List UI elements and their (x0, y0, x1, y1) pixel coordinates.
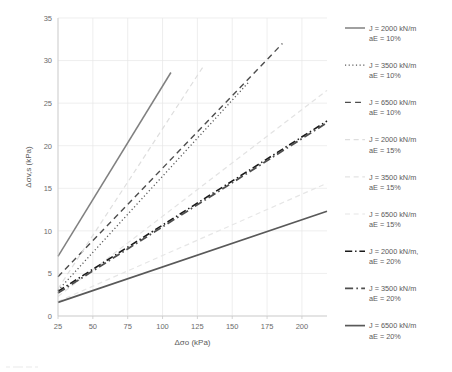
legend-label-line1-0: J = 2000 kN/m (369, 24, 416, 33)
page-footer-artifact (6, 357, 126, 364)
x-tick-label: 50 (89, 322, 97, 331)
legend-label-line2-4: aE = 15% (369, 183, 401, 192)
y-tick-label: 35 (44, 14, 52, 23)
y-tick-label: 30 (44, 56, 52, 65)
x-tick-label: 25 (54, 322, 62, 331)
x-tick-label: 125 (191, 322, 204, 331)
legend-entry-8[interactable]: J = 6500 kN/maE = 20% (345, 321, 416, 340)
legend-entry-3[interactable]: J = 2000 kN/maE = 15% (345, 135, 416, 154)
legend-entry-6[interactable]: J = 2000 kN/m,aE = 20% (345, 247, 418, 266)
tick-labels: 05101520253035255075100125150175200 (44, 14, 309, 331)
axes (58, 18, 327, 319)
legend-label-line1-5: J = 6500 kN/m (369, 210, 416, 219)
series-line-8 (58, 211, 327, 302)
gridlines (58, 18, 327, 316)
series-line-5 (58, 183, 327, 301)
y-tick-label: 5 (48, 269, 52, 278)
chart-page: 05101520253035255075100125150175200 Δσo … (0, 0, 452, 372)
y-tick-label: 15 (44, 184, 52, 193)
settlement-line-chart: 05101520253035255075100125150175200 Δσo … (0, 0, 452, 372)
legend-label-line1-6: J = 2000 kN/m, (369, 247, 418, 256)
legend-label-line1-3: J = 2000 kN/m (369, 135, 416, 144)
legend-label-line2-1: aE = 10% (369, 71, 401, 80)
legend-label-line2-7: aE = 20% (369, 294, 401, 303)
legend-entry-0[interactable]: J = 2000 kN/maE = 10% (345, 24, 416, 43)
series-lines (58, 44, 327, 303)
x-axis-title: Δσo (kPa) (174, 338, 210, 347)
legend-label-line2-2: aE = 10% (369, 108, 401, 117)
chart-legend: J = 2000 kN/maE = 10%J = 3500 kN/maE = 1… (345, 24, 418, 341)
legend-label-line2-8: aE = 20% (369, 332, 401, 341)
legend-entry-5[interactable]: J = 6500 kN/maE = 15% (345, 210, 416, 229)
x-tick-label: 100 (156, 322, 169, 331)
series-line-7 (58, 123, 327, 293)
legend-entry-2[interactable]: J = 6500 kN/maE = 10% (345, 98, 416, 117)
legend-entry-7[interactable]: J = 3500 kN/maE = 20% (345, 284, 416, 303)
x-tick-label: 150 (226, 322, 239, 331)
legend-label-line1-7: J = 3500 kN/m (369, 284, 416, 293)
legend-label-line2-0: aE = 10% (369, 34, 401, 43)
series-line-6 (58, 121, 327, 291)
x-tick-label: 200 (296, 322, 309, 331)
legend-label-line1-2: J = 6500 kN/m (369, 98, 416, 107)
legend-entry-4[interactable]: J = 3500 kN/maE = 15% (345, 173, 416, 192)
y-tick-label: 20 (44, 142, 52, 151)
y-axis-title: Δσv,s (kPa) (24, 146, 33, 188)
legend-label-line1-4: J = 3500 kN/m (369, 173, 416, 182)
legend-label-line2-5: aE = 15% (369, 220, 401, 229)
legend-label-line2-3: aE = 15% (369, 146, 401, 155)
axis-titles: Δσo (kPa)Δσv,s (kPa) (24, 146, 211, 347)
series-line-3 (58, 65, 204, 289)
series-line-2 (58, 44, 282, 277)
x-tick-label: 75 (124, 322, 132, 331)
legend-label-line2-6: aE = 20% (369, 257, 401, 266)
y-tick-label: 10 (44, 227, 52, 236)
legend-label-line1-1: J = 3500 kN/m (369, 61, 416, 70)
legend-label-line1-8: J = 6500 kN/m (369, 321, 416, 330)
y-tick-label: 25 (44, 99, 52, 108)
series-line-0 (58, 72, 171, 256)
legend-entry-1[interactable]: J = 3500 kN/maE = 10% (345, 61, 416, 80)
y-tick-label: 0 (48, 312, 52, 321)
x-tick-label: 175 (261, 322, 274, 331)
